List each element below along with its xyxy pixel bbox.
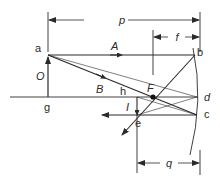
object-O-label: O <box>36 70 45 82</box>
point-g-label: g <box>44 101 50 113</box>
point-e-label: e <box>135 117 141 129</box>
point-a-label: a <box>35 42 42 54</box>
point-c-label: c <box>204 108 210 120</box>
point-d-label: d <box>204 91 211 103</box>
ray-A-label: A <box>110 40 118 52</box>
image-I-label: I <box>126 101 129 113</box>
ray-B-label: B <box>96 83 103 95</box>
reflected-ray-a <box>122 55 195 135</box>
focal-F-label: F <box>147 82 155 94</box>
point-h-label: h <box>120 85 126 97</box>
p-label: p <box>118 14 125 26</box>
q-label: q <box>166 157 173 169</box>
q-dimension: q <box>137 115 200 175</box>
focal-point <box>150 94 155 99</box>
point-b-label: b <box>197 46 203 58</box>
f-label: f <box>175 31 179 43</box>
f-dimension: f <box>153 30 199 75</box>
ray-diagram: p f q a b d c e g h O I <box>0 0 220 185</box>
concave-mirror <box>190 48 198 155</box>
